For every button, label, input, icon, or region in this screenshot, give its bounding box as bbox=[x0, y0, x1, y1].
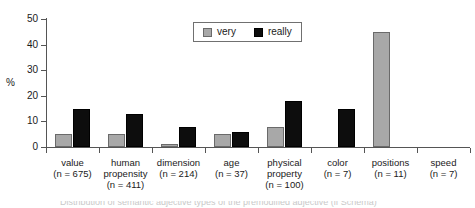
x-tick-mark bbox=[46, 148, 47, 153]
category-count: (n = 7) bbox=[411, 168, 475, 179]
x-tick-mark bbox=[470, 148, 471, 153]
bar-really-color bbox=[338, 109, 355, 147]
bar-very-positions bbox=[373, 32, 390, 147]
x-tick-mark bbox=[205, 148, 206, 153]
y-tick-label: 40 bbox=[10, 40, 38, 50]
y-tick-label: 0 bbox=[10, 142, 38, 152]
category-label: speed(n = 7) bbox=[411, 157, 475, 179]
bar-very-age bbox=[214, 134, 231, 147]
x-tick-mark bbox=[99, 148, 100, 153]
bar-really-physical-property bbox=[285, 101, 302, 147]
figure-container: % 01020304050 value(n = 675)human propen… bbox=[0, 0, 475, 208]
category-count: (n = 100) bbox=[252, 179, 317, 190]
legend-entry-really: really bbox=[254, 27, 292, 37]
x-tick-mark bbox=[364, 148, 365, 153]
legend-entry-very: very bbox=[203, 27, 236, 37]
category-count: (n = 411) bbox=[93, 179, 158, 190]
bar-really-dimension bbox=[179, 127, 196, 147]
very-swatch-icon bbox=[203, 28, 212, 37]
x-tick-mark bbox=[258, 148, 259, 153]
x-tick-mark bbox=[417, 148, 418, 153]
y-tick-label: 30 bbox=[10, 65, 38, 75]
category-name: speed bbox=[411, 157, 475, 168]
really-swatch-icon bbox=[254, 28, 263, 37]
bar-very-value bbox=[55, 134, 72, 147]
bar-very-physical-property bbox=[267, 127, 284, 147]
x-tick-mark bbox=[311, 148, 312, 153]
caption-strip: Distribution of semantic adjective types… bbox=[0, 201, 475, 208]
bar-really-human-propensity bbox=[126, 114, 143, 147]
chart-legend: very really bbox=[193, 22, 302, 42]
y-tick-label: 10 bbox=[10, 116, 38, 126]
y-axis-title: % bbox=[6, 78, 15, 88]
bar-really-age bbox=[232, 132, 249, 147]
figure-caption: Distribution of semantic adjective types… bbox=[60, 201, 377, 207]
legend-label-very: very bbox=[217, 27, 236, 37]
bar-very-dimension bbox=[161, 144, 178, 147]
bar-very-human-propensity bbox=[108, 134, 125, 147]
y-tick-label: 20 bbox=[10, 91, 38, 101]
y-tick-label: 50 bbox=[10, 14, 38, 24]
x-tick-mark bbox=[152, 148, 153, 153]
legend-label-really: really bbox=[268, 27, 292, 37]
bar-really-value bbox=[73, 109, 90, 147]
